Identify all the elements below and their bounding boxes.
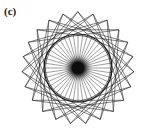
figure-panel: (c) [0,0,153,135]
center-hub [72,62,84,74]
geometric-rose-figure [0,0,153,135]
